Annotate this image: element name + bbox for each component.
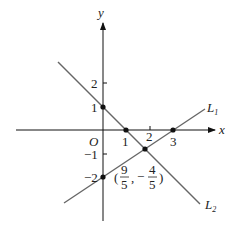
y-tick-label-2: 2 [91, 76, 98, 91]
y-tick-label-1: 1 [91, 100, 98, 115]
svg-text:5: 5 [121, 177, 128, 192]
y-tick-label-neg2: −2 [84, 170, 98, 185]
point-0-1 [100, 104, 105, 109]
line-L1-label: L1 [206, 100, 218, 117]
x-axis-label: x [218, 122, 225, 137]
svg-text:,: , [131, 170, 134, 185]
coordinate-diagram: y x O 1 2 3 2 1 −1 −2 L1 L2 ( 9 5 , − 4 … [0, 0, 237, 235]
intersection-label: ( 9 5 , − 4 5 ) [114, 162, 163, 192]
svg-text:): ) [159, 170, 163, 185]
x-tick-label-3: 3 [170, 134, 177, 149]
y-axis-label: y [96, 5, 104, 20]
point-intersection [142, 146, 147, 151]
x-tick-label-2: 2 [146, 129, 153, 144]
svg-text:4: 4 [149, 162, 156, 177]
point-0-neg2 [100, 174, 105, 179]
svg-text:(: ( [114, 170, 118, 185]
y-tick-label-neg1: −1 [84, 147, 98, 162]
x-tick-label-1: 1 [122, 134, 129, 149]
line-L2-label: L2 [204, 197, 216, 214]
point-1-0 [123, 127, 128, 132]
svg-text:5: 5 [149, 177, 156, 192]
line-L2 [58, 62, 200, 204]
svg-text:9: 9 [121, 162, 128, 177]
point-3-0 [170, 127, 175, 132]
svg-text:−: − [137, 169, 144, 184]
